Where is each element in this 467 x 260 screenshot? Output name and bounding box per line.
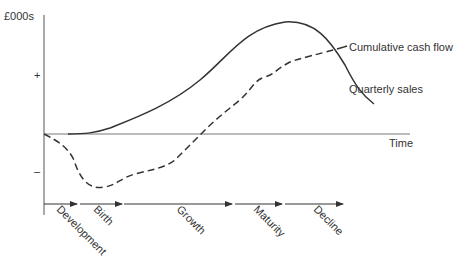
y-axis-label: £000s <box>4 10 34 22</box>
stage-label-birth: Birth <box>92 203 116 227</box>
cumulative-cash-flow-line <box>44 47 344 188</box>
y-axis-plus: + <box>34 69 40 81</box>
stage-label-growth: Growth <box>175 203 209 237</box>
legend-cumulative-cash-flow: Cumulative cash flow <box>349 41 453 53</box>
quarterly-sales-line <box>68 22 374 134</box>
x-axis-label: Time <box>389 137 413 149</box>
product-lifecycle-diagram: £000s + – Time Cumulative cash flow Quar… <box>0 0 467 260</box>
cash-flow-leader <box>344 46 347 47</box>
y-axis-minus: – <box>34 165 41 177</box>
stage-label-decline: Decline <box>312 203 346 237</box>
stage-label-maturity: Maturity <box>252 203 288 239</box>
legend-quarterly-sales: Quarterly sales <box>349 83 423 95</box>
